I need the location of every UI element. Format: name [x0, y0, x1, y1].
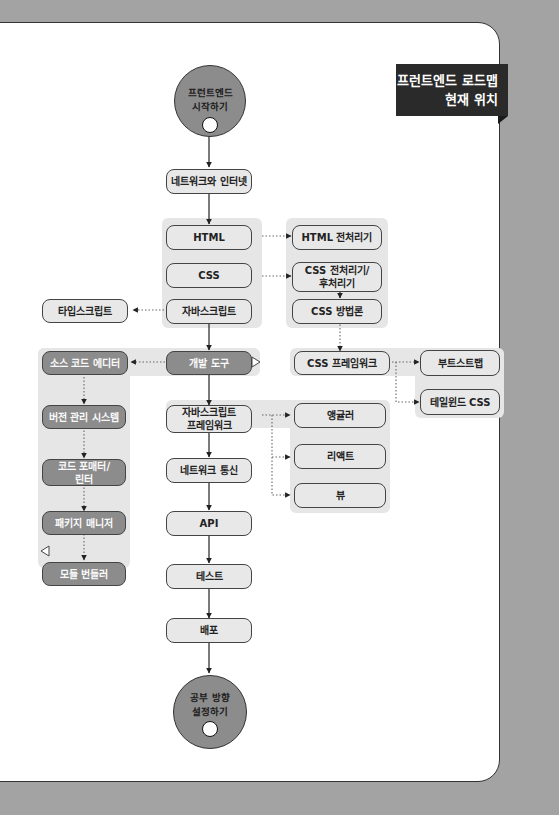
node-tailwind[interactable]: 테일윈드 CSS — [420, 389, 500, 415]
start-line1: 프런트엔드 — [175, 86, 245, 100]
node-angular[interactable]: 앵귤러 — [294, 403, 386, 428]
studying-character-icon — [202, 721, 218, 737]
node-module-bundler[interactable]: 모듈 번들러 — [42, 562, 126, 586]
end-node: 공부 방향 설정하기 — [173, 675, 247, 749]
node-css-preprocessor[interactable]: CSS 전처리기/ 후처리기 — [292, 262, 382, 292]
current-marker-devtools — [252, 357, 260, 367]
node-typescript[interactable]: 타입스크립트 — [42, 299, 128, 323]
node-deploy[interactable]: 배포 — [166, 618, 252, 643]
node-css-methodology[interactable]: CSS 방법론 — [292, 299, 382, 324]
node-network[interactable]: 네트워크와 인터넷 — [166, 169, 252, 194]
node-vue[interactable]: 뷰 — [294, 483, 386, 508]
end-line1: 공부 방향 — [174, 691, 246, 705]
node-devtools[interactable]: 개발 도구 — [166, 351, 252, 375]
start-node: 프런트엔드 시작하기 — [174, 65, 246, 137]
node-js-framework[interactable]: 자바스크립트 프레임워크 — [166, 405, 252, 433]
node-react[interactable]: 리액트 — [294, 444, 386, 469]
node-package-manager[interactable]: 패키지 매니저 — [42, 511, 126, 535]
end-line2: 설정하기 — [174, 705, 246, 719]
current-marker-bundler — [41, 546, 49, 556]
node-version-control[interactable]: 버전 관리 시스템 — [42, 405, 126, 429]
node-bootstrap[interactable]: 부트스트랩 — [420, 350, 500, 376]
node-test[interactable]: 테스트 — [166, 564, 252, 589]
node-html-preprocessor[interactable]: HTML 전처리기 — [292, 225, 382, 250]
node-source-editor[interactable]: 소스 코드 에디터 — [42, 351, 128, 375]
node-javascript[interactable]: 자바스크립트 — [166, 299, 252, 324]
node-css-framework[interactable]: CSS 프레임워크 — [294, 351, 390, 375]
node-html[interactable]: HTML — [166, 225, 252, 250]
node-api[interactable]: API — [166, 511, 252, 536]
cheering-character-icon — [202, 117, 218, 133]
node-code-formatter[interactable]: 코드 포매터/ 린터 — [42, 459, 126, 486]
start-line2: 시작하기 — [175, 100, 245, 114]
node-css[interactable]: CSS — [166, 263, 252, 288]
node-network-comm[interactable]: 네트워크 통신 — [166, 458, 252, 483]
